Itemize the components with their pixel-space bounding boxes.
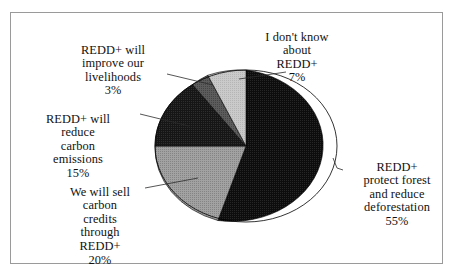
pie-label-dont-know: I don't know about REDD+ 7%: [243, 17, 351, 99]
pie-chart-figure: I don't know about REDD+ 7% REDD+ protec…: [0, 0, 456, 277]
pie-label-livelihoods: REDD+ will improve our livelihoods 3%: [52, 30, 174, 112]
pie-label-sell-credits-text: We will sell carbon credits through REDD…: [70, 185, 130, 253]
pie-label-reduce-emissions-percent: 15%: [20, 167, 136, 181]
pie-label-protect-forest-text: REDD+ protect forest and reduce deforest…: [363, 160, 430, 215]
pie-label-sell-credits-percent: 20%: [46, 254, 154, 268]
pie-label-reduce-emissions-text: REDD+ will reduce carbon emissions: [46, 112, 110, 167]
pie-label-reduce-emissions: REDD+ will reduce carbon emissions 15%: [20, 99, 136, 194]
pie-label-protect-forest: REDD+ protect forest and reduce deforest…: [345, 147, 449, 242]
pie-label-dont-know-text: I don't know about REDD+: [265, 30, 328, 71]
pie-label-livelihoods-percent: 3%: [52, 84, 174, 98]
pie-label-livelihoods-text: REDD+ will improve our livelihoods: [81, 43, 145, 84]
pie-label-protect-forest-percent: 55%: [345, 215, 449, 229]
pie-label-dont-know-percent: 7%: [243, 71, 351, 85]
